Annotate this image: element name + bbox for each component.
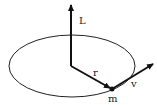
mass-point	[110, 87, 115, 92]
label-m: m	[108, 93, 118, 104]
label-r: r	[93, 67, 98, 78]
label-v: v	[130, 78, 137, 89]
angular-momentum-diagram: L r v m	[0, 0, 157, 105]
label-L: L	[79, 15, 86, 26]
radius-arrow	[71, 66, 110, 88]
